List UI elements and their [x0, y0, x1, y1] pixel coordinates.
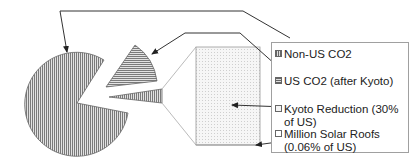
bar-kyoto-reduction [196, 47, 260, 145]
bar-connector-bottom [162, 103, 196, 145]
leader-non-us-co2 [60, 11, 290, 52]
legend-item-us-co2: US CO2 (after Kyoto) [275, 75, 393, 88]
legend-item-kyoto-reduction: Kyoto Reduction (30% of US) [275, 103, 405, 129]
pie-slice-us-co2 [106, 45, 157, 87]
pie-slice-non-us-co2 [25, 52, 128, 156]
vertical-hatch-swatch-icon [275, 50, 282, 57]
empty-swatch-icon [275, 130, 282, 137]
legend-item-solar-roofs: Million Solar Roofs (0.06% of US) [275, 128, 405, 154]
horizontal-hatch-swatch-icon [275, 77, 282, 84]
dotted-swatch-icon [275, 105, 282, 112]
chart-legend: Non-US CO2 US CO2 (after Kyoto) Kyoto Re… [271, 42, 409, 153]
legend-item-non-us-co2: Non-US CO2 [275, 48, 352, 61]
bar-connector-top [162, 47, 196, 89]
pie-slice-kyoto-reduction [109, 89, 162, 103]
